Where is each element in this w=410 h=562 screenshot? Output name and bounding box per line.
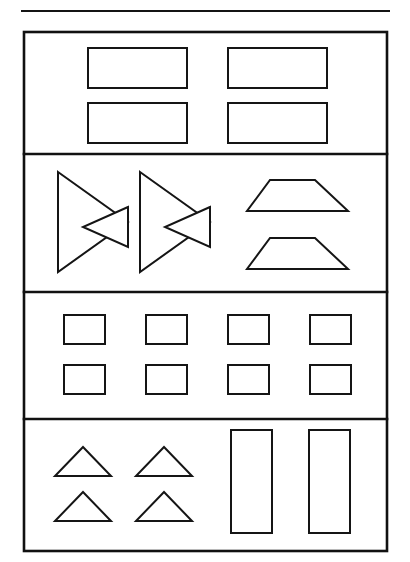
- wide-rectangle: [228, 48, 327, 88]
- small-rectangle: [146, 365, 187, 394]
- wide-rectangle: [88, 103, 187, 143]
- worksheet-canvas: [0, 0, 410, 562]
- small-rectangle: [146, 315, 187, 344]
- tall-rectangle: [309, 430, 350, 533]
- tall-rectangle: [231, 430, 272, 533]
- small-rectangle: [310, 315, 351, 344]
- wide-rectangle: [88, 48, 187, 88]
- small-rectangle: [228, 365, 269, 394]
- small-rectangle: [228, 315, 269, 344]
- small-rectangle: [64, 315, 105, 344]
- small-rectangle: [310, 365, 351, 394]
- small-rectangle: [64, 365, 105, 394]
- wide-rectangle: [228, 103, 327, 143]
